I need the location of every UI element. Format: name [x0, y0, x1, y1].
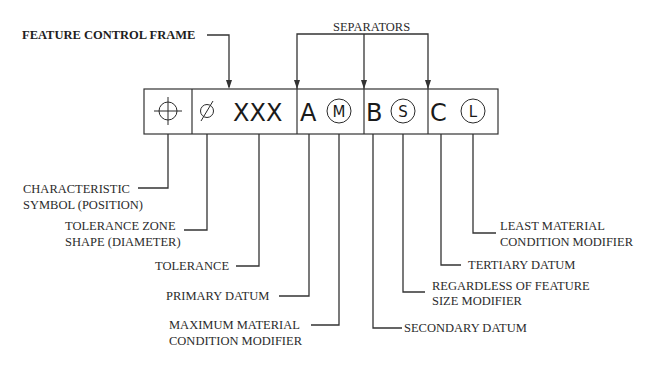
primary-datum-letter: A	[300, 99, 317, 127]
leader-line	[403, 134, 425, 292]
label-line: CHARACTERISTIC	[23, 182, 130, 196]
arrowhead-icon	[226, 80, 232, 89]
mmc-modifier-callout: MAXIMUM MATERIAL CONDITION MODIFIER	[169, 134, 339, 348]
label-line: TOLERANCE	[155, 259, 229, 273]
tertiary-datum-callout: TERTIARY DATUM	[441, 134, 575, 272]
arrowhead-icon	[294, 80, 300, 89]
primary-datum-callout: PRIMARY DATUM	[166, 134, 309, 303]
feature-control-frame-leader	[207, 35, 229, 87]
label-line: TERTIARY DATUM	[468, 258, 575, 272]
lmc-modifier-callout: LEAST MATERIAL CONDITION MODIFIER	[473, 134, 634, 249]
arrowhead-icon	[425, 80, 431, 89]
label-line: CONDITION MODIFIER	[169, 334, 303, 348]
label-line: SHAPE (DIAMETER)	[65, 235, 181, 249]
feature-control-frame: XXX A M B S C L	[144, 89, 498, 134]
label-line: SECONDARY DATUM	[404, 321, 527, 335]
leader-line	[441, 134, 461, 265]
tertiary-datum-letter: C	[430, 99, 447, 127]
leader-line	[311, 134, 339, 325]
leader-line	[138, 134, 168, 188]
label-line: CONDITION MODIFIER	[500, 235, 634, 249]
feature-control-frame-diagram: FEATURE CONTROL FRAME SEPARATORS XXX	[0, 0, 659, 367]
leader-line	[236, 134, 259, 266]
label-line: TOLERANCE ZONE	[65, 219, 176, 233]
rfs-modifier-letter: S	[398, 103, 408, 121]
feature-control-frame-label: FEATURE CONTROL FRAME	[22, 28, 195, 42]
label-line: MAXIMUM MATERIAL	[169, 318, 300, 332]
tolerance-value: XXX	[233, 99, 282, 127]
leader-line	[373, 134, 402, 328]
label-line: REGARDLESS OF FEATURE	[432, 279, 590, 293]
leader-line	[473, 134, 496, 233]
characteristic-callout: CHARACTERISTIC SYMBOL (POSITION)	[23, 134, 168, 212]
separators-label: SEPARATORS	[333, 20, 410, 34]
arrowhead-icon	[361, 80, 367, 89]
mmc-modifier-letter: M	[333, 103, 346, 121]
label-line: LEAST MATERIAL	[500, 219, 605, 233]
label-line: SIZE MODIFIER	[432, 294, 523, 308]
separators-callout: SEPARATORS	[294, 20, 431, 89]
secondary-datum-letter: B	[366, 99, 382, 127]
label-line: SYMBOL (POSITION)	[23, 198, 143, 212]
leader-line	[279, 134, 309, 296]
lmc-modifier-letter: L	[469, 103, 478, 121]
feature-control-frame-callout: FEATURE CONTROL FRAME	[22, 28, 232, 89]
leader-line	[184, 134, 207, 230]
label-line: PRIMARY DATUM	[166, 289, 269, 303]
